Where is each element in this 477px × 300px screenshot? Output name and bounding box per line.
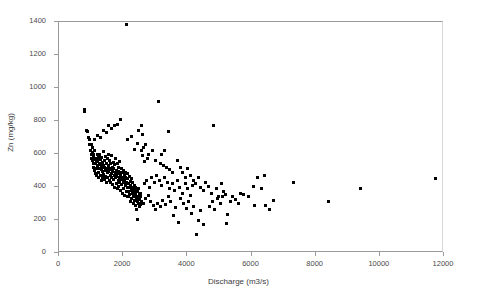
x-tick-label: 6000 — [226, 260, 276, 268]
data-point — [144, 197, 147, 200]
plot-area — [58, 21, 443, 252]
data-point — [114, 157, 117, 160]
y-tick-label: 1400 — [0, 17, 46, 25]
data-point — [136, 142, 139, 145]
data-point — [184, 182, 187, 185]
data-point — [150, 176, 153, 179]
x-tick-label: 10000 — [354, 260, 404, 268]
data-point — [179, 166, 182, 169]
data-point — [176, 179, 179, 182]
data-point — [272, 199, 275, 202]
data-point — [211, 200, 214, 203]
data-point — [327, 200, 330, 203]
data-point — [247, 195, 250, 198]
data-point — [213, 208, 216, 211]
data-point — [86, 130, 89, 133]
x-tick-mark — [315, 252, 316, 256]
y-tick-label: 0 — [0, 248, 46, 256]
data-point — [192, 205, 195, 208]
data-point — [105, 131, 108, 134]
data-point — [140, 149, 143, 152]
data-point — [102, 129, 105, 132]
data-point — [171, 171, 174, 174]
data-point — [202, 189, 205, 192]
data-point — [88, 138, 91, 141]
data-point — [174, 206, 177, 209]
data-point — [107, 124, 110, 127]
data-point — [182, 202, 185, 205]
data-point — [219, 202, 222, 205]
data-point — [102, 150, 105, 153]
scatter-points-layer — [59, 22, 442, 251]
data-point — [134, 204, 137, 207]
data-point — [168, 187, 171, 190]
data-point — [434, 177, 437, 180]
data-point — [159, 205, 162, 208]
data-point — [110, 127, 113, 130]
x-tick-label: 0 — [33, 260, 83, 268]
data-point — [116, 123, 119, 126]
data-point — [181, 171, 184, 174]
data-point — [148, 186, 151, 189]
data-point — [190, 212, 193, 215]
data-point — [220, 182, 223, 185]
data-point — [119, 118, 122, 121]
x-tick-mark — [251, 252, 252, 256]
data-point — [164, 203, 167, 206]
data-point — [242, 193, 245, 196]
data-point — [160, 184, 163, 187]
data-point — [99, 136, 102, 139]
data-point — [167, 195, 170, 198]
data-point — [130, 135, 133, 138]
x-axis-ticks: 020004000600080001000012000 — [58, 252, 443, 272]
data-point — [154, 208, 157, 211]
data-point — [237, 202, 240, 205]
data-point — [136, 218, 139, 221]
data-point — [194, 182, 197, 185]
y-tick-label: 200 — [0, 215, 46, 223]
data-point — [215, 187, 218, 190]
data-point — [178, 186, 181, 189]
x-tick-mark — [379, 252, 380, 256]
x-tick-label: 4000 — [161, 260, 211, 268]
data-point — [163, 176, 166, 179]
data-point — [185, 207, 188, 210]
data-point — [263, 174, 266, 177]
data-point — [260, 187, 263, 190]
data-point — [137, 187, 140, 190]
y-tick-mark — [54, 153, 58, 154]
data-point — [83, 110, 86, 113]
data-point — [126, 138, 129, 141]
x-tick-label: 2000 — [97, 260, 147, 268]
data-point — [186, 167, 189, 170]
data-point — [158, 179, 161, 182]
x-tick-mark — [186, 252, 187, 256]
data-point — [195, 233, 198, 236]
data-point — [208, 205, 211, 208]
data-point — [141, 133, 144, 136]
data-point — [225, 222, 228, 225]
data-point — [145, 179, 148, 182]
data-point — [139, 195, 142, 198]
data-point — [234, 198, 237, 201]
data-point — [142, 202, 145, 205]
data-point — [202, 223, 205, 226]
data-point — [253, 204, 256, 207]
data-point — [179, 197, 182, 200]
data-point — [118, 160, 121, 163]
data-point — [144, 143, 147, 146]
y-tick-mark — [54, 219, 58, 220]
data-point — [186, 187, 189, 190]
data-point — [229, 200, 232, 203]
data-point — [137, 129, 140, 132]
data-point — [171, 182, 174, 185]
data-point — [197, 219, 200, 222]
data-point — [199, 209, 202, 212]
data-point — [226, 213, 229, 216]
data-point — [161, 199, 164, 202]
data-point — [160, 153, 163, 156]
data-point — [152, 204, 155, 207]
y-tick-label: 1200 — [0, 50, 46, 58]
data-point — [359, 187, 362, 190]
data-point — [189, 194, 192, 197]
